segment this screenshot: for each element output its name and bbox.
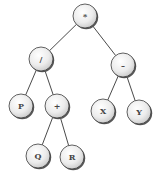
tree-node-div: / [29,47,54,72]
tree-node-root: * [73,4,98,29]
tree-node-R: R [60,145,85,170]
edge-root-div [50,24,77,50]
edge-minus-Y [127,76,135,100]
node-label: X [100,106,107,116]
tree-node-Y: Y [127,100,152,125]
node-label: + [54,101,61,111]
node-label: Q [35,151,42,161]
node-label: R [69,152,76,162]
expression-tree-diagram: */–P+XYQR [0,0,155,182]
node-label: P [18,101,24,111]
edge-plus-Q [42,117,52,145]
edge-div-plus [45,70,53,94]
edge-root-minus [92,25,115,55]
node-label: / [40,54,43,64]
node-label: Y [135,107,142,117]
edge-div-P [26,70,37,95]
tree-node-Q: Q [26,144,51,169]
tree-node-minus: – [111,53,136,78]
edge-minus-X [108,76,118,100]
edge-plus-R [60,118,68,146]
tree-edges [26,24,135,145]
tree-node-X: X [91,99,116,124]
tree-node-plus: + [45,94,70,119]
tree-node-P: P [9,94,34,119]
node-label: – [121,60,125,70]
